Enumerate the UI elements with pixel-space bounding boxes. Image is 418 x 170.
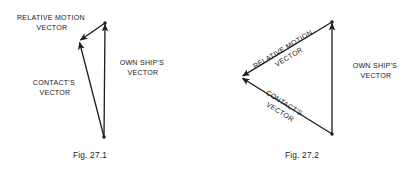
vector-triangle-diagram: RELATIVE MOTION VECTOR OWN SHIP'S VECTOR… [0, 0, 418, 170]
figure-caption-1: Fig. 27.1 [73, 150, 107, 160]
own-ships-vector-label: OWN SHIP'S VECTOR [120, 59, 167, 77]
relative-motion-vector-label: RELATIVE MOTION VECTOR [17, 14, 87, 32]
apex-bottom-dot-2 [330, 132, 333, 135]
figure-27-1: RELATIVE MOTION VECTOR OWN SHIP'S VECTOR… [17, 14, 166, 160]
contacts-vector-label: CONTACT'S VECTOR [259, 89, 306, 127]
apex-bottom-dot-1 [102, 135, 105, 138]
own-ships-vector-label: OWN SHIP'S VECTOR [353, 62, 400, 80]
relative-motion-vector-line-1 [81, 23, 106, 40]
apex-top-dot-2 [330, 20, 333, 23]
diagram-canvas: RELATIVE MOTION VECTOR OWN SHIP'S VECTOR… [0, 0, 418, 170]
own-ships-vector-line-1 [104, 25, 105, 138]
contacts-vector-line-1 [80, 43, 104, 138]
figure-caption-2: Fig. 27.2 [285, 150, 319, 160]
apex-top-dot-1 [103, 21, 106, 24]
relative-motion-vector-label: RELATIVE MOTION VECTOR [252, 27, 321, 78]
contacts-vector-label: CONTACT'S VECTOR [33, 79, 77, 97]
figure-27-2: RELATIVE MOTION VECTOR OWN SHIP'S VECTOR… [243, 20, 400, 160]
